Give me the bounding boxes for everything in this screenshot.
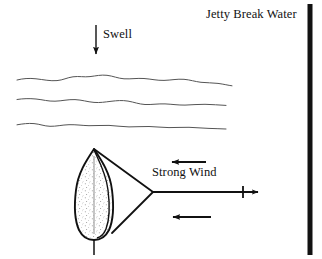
- wave-line-3: [17, 123, 226, 129]
- anchor-rode-line: [153, 186, 258, 198]
- swell-label: Swell: [103, 28, 132, 41]
- boat-hull: [75, 149, 113, 255]
- strong-wind-label: Strong Wind: [152, 166, 217, 179]
- diagram-canvas: [0, 0, 322, 259]
- jetty-break-water-label: Jetty Break Water: [206, 8, 297, 21]
- wave-line-1: [17, 75, 232, 86]
- wave-line-2: [17, 99, 226, 106]
- jetty-break-water-diagram: Jetty Break Water Swell Strong Wind: [0, 0, 322, 259]
- swell-wave-lines: [17, 75, 232, 129]
- bridle-line-stern: [112, 192, 153, 233]
